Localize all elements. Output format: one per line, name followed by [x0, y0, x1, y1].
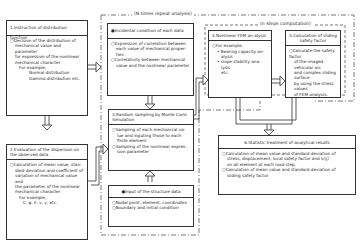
- box6-line: sliding safety factor: [222, 173, 352, 178]
- incidental-body: ○Expression of correlation between each …: [108, 39, 193, 70]
- input-body: ○Nodal point, element, coordinates ○Boun…: [109, 198, 193, 213]
- box1-line: mechanical value and parameter: [10, 43, 84, 54]
- box-monte-carlo: 3.Random sampling by Monte Carlo Simulat…: [108, 109, 194, 171]
- incidental-line: value and the nonlinear parameter: [111, 63, 190, 68]
- inner-frame-label: (n steps computation): [258, 21, 313, 26]
- box6-line: ○Calculation of mean value and standard …: [222, 167, 352, 172]
- box6-body: ○Calculation of mean value and standard …: [219, 149, 355, 180]
- box5-line: and complex sliding surface: [289, 70, 337, 81]
- box-input-structure-data: ●Input of the structure data ○Nodal poin…: [108, 185, 194, 227]
- box4-body: ○For example, • Bearing capacity an- aly…: [209, 41, 271, 77]
- box3-title: 3.Random sampling by Monte Carlo Simulat…: [109, 110, 193, 125]
- box-nonlinear-fem: 4.Nonlinear FEM an-alysis ○For example, …: [208, 30, 272, 98]
- box5-line: ○Calculate the safety factor: [289, 48, 337, 59]
- box5-line: of FEM analysis.: [289, 92, 337, 97]
- box6-title: 6.Statistic treatment of analytical resu…: [219, 136, 355, 149]
- box5-title: 5.Calculation of sliding safety factor: [286, 31, 340, 46]
- box-statistic-treatment: 6.Statistic treatment of analytical resu…: [218, 135, 356, 195]
- box5-line: by using the stress values: [289, 81, 337, 92]
- box5-body: ○Calculate the safety factor of the imag…: [286, 46, 340, 99]
- box1-line: for expression of the nonlinear: [10, 54, 84, 59]
- incidental-title: ●Incidental condition of each data: [108, 24, 193, 39]
- box3-body: ○Sampling of each mechanical va- lue and…: [109, 125, 193, 156]
- box5-line: of the imaged vehicular arc: [289, 59, 337, 70]
- box-dispersion-evaluation: 2.Evaluation of the dispersion on the ob…: [6, 144, 88, 240]
- box2-title: 2.Evaluation of the dispersion on the ob…: [7, 145, 87, 160]
- box4-title: 4.Nonlinear FEM an-alysis: [209, 31, 271, 41]
- box1-line: Gamma distribution etc.: [10, 76, 84, 81]
- box1-body: ○Decision of the distribution of mechani…: [7, 36, 87, 83]
- box-incidental-condition: ●Incidental condition of each data ○Expr…: [107, 23, 194, 96]
- box2-body: ○Calculation of mean value, stan- dard d…: [7, 160, 87, 207]
- box2-line: C, φ, E, ν, γ, etc.: [10, 200, 84, 205]
- outer-frame-label: (N times repeat analysis): [132, 11, 194, 16]
- input-line: ○Boundary and initial condition: [112, 205, 190, 210]
- input-title: ●Input of the structure data: [109, 186, 193, 198]
- box3-line: sion parameter: [112, 149, 190, 154]
- box4-line: etc.: [212, 70, 268, 75]
- box-sliding-safety-factor: 5.Calculation of sliding safety factor ○…: [285, 30, 341, 98]
- box2-line: variation of mechanical value and: [10, 173, 84, 184]
- box-distribution-function: 1.Instruction of distribution function ○…: [6, 20, 88, 116]
- box1-title: 1.Instruction of distribution function: [7, 21, 87, 36]
- incidental-line: ○Correlativity between mechanical: [111, 57, 190, 62]
